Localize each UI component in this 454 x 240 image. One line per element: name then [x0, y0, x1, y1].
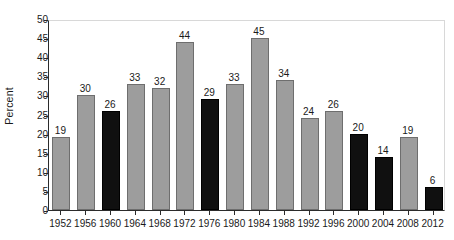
- x-axis-tick-label: 1992: [295, 218, 323, 229]
- x-axis-tick-mark: [433, 211, 434, 215]
- bar: [276, 80, 294, 210]
- bar: [301, 118, 319, 210]
- bar: [226, 84, 244, 210]
- bar-value-label: 26: [95, 99, 125, 110]
- bar: [400, 137, 418, 210]
- x-axis-tick-label: 1988: [270, 218, 298, 229]
- x-axis-tick-mark: [259, 211, 260, 215]
- x-axis-tick-mark: [284, 211, 285, 215]
- bar-value-label: 20: [343, 122, 373, 133]
- x-axis-tick-mark: [209, 211, 210, 215]
- x-axis-tick-mark: [60, 211, 61, 215]
- plot-area: [48, 20, 445, 211]
- y-axis-tick-mark: [44, 211, 48, 212]
- bar: [102, 111, 120, 210]
- bar-value-label: 33: [219, 72, 249, 83]
- x-axis-tick-mark: [333, 211, 334, 215]
- bar: [375, 157, 393, 210]
- bar: [425, 187, 443, 210]
- x-axis-tick-label: 2000: [344, 218, 372, 229]
- bar-value-label: 32: [145, 76, 175, 87]
- x-axis-tick-label: 1952: [46, 218, 74, 229]
- x-axis-tick-mark: [85, 211, 86, 215]
- x-axis-tick-mark: [309, 211, 310, 215]
- bar-value-label: 44: [169, 30, 199, 41]
- x-axis-tick-label: 2004: [369, 218, 397, 229]
- x-axis-tick-label: 1976: [195, 218, 223, 229]
- bar-value-label: 45: [244, 26, 274, 37]
- bar-value-label: 19: [393, 125, 423, 136]
- x-axis-tick-mark: [408, 211, 409, 215]
- x-axis-tick-mark: [383, 211, 384, 215]
- x-axis-tick-label: 1984: [245, 218, 273, 229]
- x-axis-tick-label: 1996: [319, 218, 347, 229]
- x-axis-tick-mark: [358, 211, 359, 215]
- x-axis-tick-label: 1956: [71, 218, 99, 229]
- y-axis-title: Percent: [0, 0, 18, 212]
- x-axis-tick-mark: [110, 211, 111, 215]
- x-axis-tick-mark: [234, 211, 235, 215]
- x-axis-tick-mark: [160, 211, 161, 215]
- x-axis-tick-label: 1960: [96, 218, 124, 229]
- bar: [325, 111, 343, 210]
- bar: [350, 134, 368, 210]
- x-axis-tick-mark: [184, 211, 185, 215]
- bar-value-label: 26: [318, 99, 348, 110]
- bar-value-label: 14: [368, 145, 398, 156]
- bar: [127, 84, 145, 210]
- bar-value-label: 6: [418, 175, 448, 186]
- bar-value-label: 29: [194, 87, 224, 98]
- x-axis-tick-label: 2012: [419, 218, 447, 229]
- bar: [77, 95, 95, 210]
- x-axis-tick-label: 1968: [146, 218, 174, 229]
- bar: [201, 99, 219, 210]
- bar-chart: Percent 05101520253035404550 19302633324…: [0, 0, 454, 240]
- x-axis-tick-mark: [135, 211, 136, 215]
- bar-value-label: 34: [269, 68, 299, 79]
- bar: [52, 137, 70, 210]
- bar: [251, 38, 269, 210]
- x-axis-tick-label: 1964: [121, 218, 149, 229]
- bar: [176, 42, 194, 210]
- x-axis-tick-label: 2008: [394, 218, 422, 229]
- bar-value-label: 19: [45, 125, 75, 136]
- bar: [152, 88, 170, 210]
- x-axis-tick-label: 1980: [220, 218, 248, 229]
- bar-value-label: 30: [70, 83, 100, 94]
- y-axis-title-text: Percent: [3, 87, 15, 125]
- x-axis-tick-label: 1972: [170, 218, 198, 229]
